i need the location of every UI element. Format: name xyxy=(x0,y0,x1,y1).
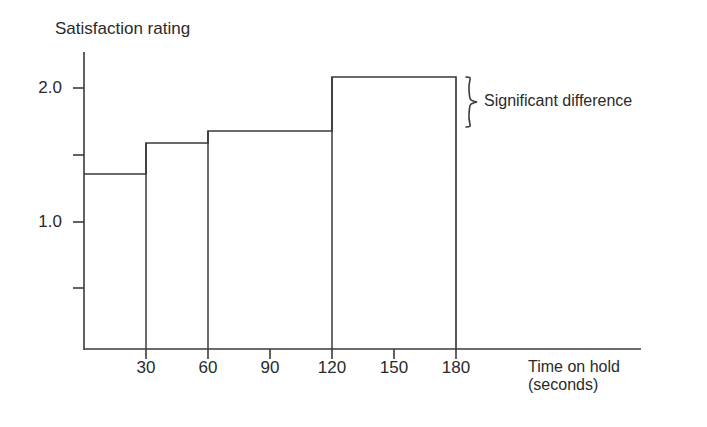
significant-difference-label: Significant difference xyxy=(484,92,632,110)
x-axis-tick-label-120: 120 xyxy=(307,358,357,377)
y-axis-tick-label-2.0: 2.0 xyxy=(16,78,62,97)
x-axis-tick-label-60: 60 xyxy=(183,358,233,377)
chart-title: Satisfaction rating xyxy=(55,19,190,38)
x-axis-tick-label-90: 90 xyxy=(245,358,295,377)
x-axis-tick-label-30: 30 xyxy=(121,358,171,377)
significance-brace-icon xyxy=(466,77,477,127)
x-axis-title-units: (seconds) xyxy=(528,376,598,394)
chart-figure: Satisfaction rating 2.0 1.0 30 60 90 120… xyxy=(0,0,707,427)
x-axis-title: Time on hold xyxy=(528,358,620,376)
x-axis-tick-label-180: 180 xyxy=(431,358,481,377)
y-axis-tick-label-1.0: 1.0 xyxy=(16,212,62,231)
histogram-outline xyxy=(84,77,456,349)
x-axis-tick-label-150: 150 xyxy=(369,358,419,377)
